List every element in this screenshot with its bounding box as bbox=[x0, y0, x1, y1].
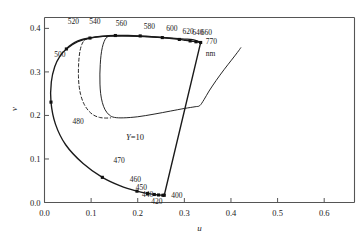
curve-gamut-dashed-inner bbox=[78, 38, 110, 118]
x-tick-label: 0.6 bbox=[319, 208, 330, 218]
y-tick-label: 0.1 bbox=[21, 154, 41, 164]
wavelength-marker bbox=[101, 176, 104, 179]
wavelength-marker bbox=[153, 193, 156, 196]
wavelength-label-540: 540 bbox=[89, 17, 100, 26]
y-axis-label: v bbox=[9, 107, 19, 111]
x-tick-label: 0.5 bbox=[272, 208, 283, 218]
y-tick-label: 0.0 bbox=[21, 198, 41, 208]
wavelength-label-500: 500 bbox=[54, 50, 65, 59]
wavelength-marker bbox=[178, 38, 181, 41]
curve-spectral-locus bbox=[51, 35, 201, 195]
wavelength-marker bbox=[199, 41, 202, 44]
wavelength-marker bbox=[49, 101, 52, 104]
y-tick-label: 0.2 bbox=[21, 110, 41, 120]
wavelength-label-480: 480 bbox=[72, 117, 83, 126]
x-tick-label: 0.0 bbox=[39, 208, 50, 218]
wavelength-label-520: 520 bbox=[68, 17, 79, 26]
chromaticity-diagram-figure: 0.00.10.20.30.40.50.60.00.10.20.30.45205… bbox=[0, 0, 363, 251]
wavelength-label-nm: nm bbox=[206, 49, 216, 58]
wavelength-label-470: 470 bbox=[113, 156, 124, 165]
wavelength-marker bbox=[189, 39, 192, 42]
wavelength-marker bbox=[139, 34, 142, 37]
wavelength-label-400: 400 bbox=[171, 191, 182, 200]
spectral-markers bbox=[49, 34, 202, 197]
wavelength-label-580: 580 bbox=[144, 22, 155, 31]
wavelength-marker bbox=[194, 40, 197, 43]
x-axis-label: u bbox=[197, 223, 202, 233]
x-tick-label: 0.3 bbox=[179, 208, 190, 218]
curves bbox=[51, 35, 241, 195]
wavelength-label-600: 600 bbox=[166, 24, 177, 33]
axis-ticks bbox=[45, 28, 325, 202]
wavelength-marker bbox=[114, 34, 117, 37]
wavelength-label-770: 770 bbox=[206, 37, 217, 46]
curve-purple-line bbox=[164, 42, 200, 195]
x-tick-label: 0.1 bbox=[86, 208, 97, 218]
y-tick-label: 0.4 bbox=[21, 23, 41, 33]
x-tick-label: 0.2 bbox=[132, 208, 143, 218]
wavelength-label-420: 420 bbox=[151, 197, 162, 206]
wavelength-marker bbox=[157, 193, 160, 196]
annotation-Y10: Y=10 bbox=[126, 132, 144, 142]
x-tick-label: 0.4 bbox=[226, 208, 237, 218]
wavelength-label-560: 560 bbox=[116, 19, 127, 28]
y-tick-label: 0.3 bbox=[21, 67, 41, 77]
wavelength-marker bbox=[88, 37, 91, 40]
wavelength-label-660: 660 bbox=[201, 28, 212, 37]
wavelength-marker bbox=[161, 36, 164, 39]
curve-gamut-solid-inner bbox=[100, 36, 241, 118]
